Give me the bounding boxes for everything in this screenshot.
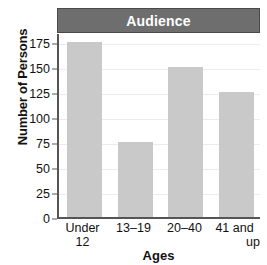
chart-title: Audience xyxy=(58,9,259,34)
x-tick-label-line2: up xyxy=(209,235,260,249)
y-tick-label: 50 xyxy=(18,162,50,176)
plot-area xyxy=(57,34,260,219)
x-tick-label: 41 andup xyxy=(209,221,260,249)
bar-series xyxy=(59,34,260,217)
x-tick-label-line1: 41 and xyxy=(215,221,253,235)
x-axis-tick-labels: Under1213–1920–4041 andup xyxy=(57,221,260,251)
y-tick-label: 150 xyxy=(18,62,50,76)
y-tick-label: 75 xyxy=(18,137,50,151)
bar xyxy=(118,142,153,217)
x-tick-label-line2: 12 xyxy=(57,235,108,249)
y-tick-label: 0 xyxy=(18,212,50,226)
y-tick-label: 175 xyxy=(18,37,50,51)
x-tick-label-line1: 20–40 xyxy=(167,221,202,235)
x-tick-label: 13–19 xyxy=(108,221,159,235)
y-tick-label: 125 xyxy=(18,87,50,101)
bar xyxy=(67,42,102,217)
x-tick-label-line1: 13–19 xyxy=(116,221,151,235)
y-axis-tick-labels: 175 150 125 100 75 50 25 0 xyxy=(18,0,50,265)
x-tick-label: 20–40 xyxy=(159,221,210,235)
bar xyxy=(219,92,254,217)
bar-chart-figure: Number of Persons 175 150 125 100 75 50 … xyxy=(0,0,267,265)
y-tick-label: 25 xyxy=(18,187,50,201)
x-axis-title: Ages xyxy=(57,248,260,263)
x-tick-label-line1: Under xyxy=(65,221,99,235)
bar xyxy=(168,67,203,217)
chart-title-band: Audience xyxy=(57,8,260,33)
y-tick-label: 100 xyxy=(18,112,50,126)
x-tick-label: Under12 xyxy=(57,221,108,249)
